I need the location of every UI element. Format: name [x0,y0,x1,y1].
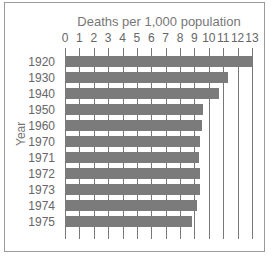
bar [65,120,202,131]
x-tick-label: 1 [76,31,83,45]
bar [65,200,197,211]
x-tick-label: 8 [177,31,184,45]
y-tick-label: 1971 [15,151,55,165]
y-tick-label: 1975 [15,215,55,229]
bar [65,104,203,115]
x-tick-label: 12 [231,31,244,45]
bar [65,216,192,227]
bar [65,136,200,147]
y-axis-title: Year [14,122,28,146]
bar [65,152,199,163]
gridline [238,48,239,239]
x-tick-label: 2 [90,31,97,45]
y-tick-label: 1950 [15,103,55,117]
chart-title: Deaths per 1,000 population [0,14,272,29]
y-tick-label: 1930 [15,71,55,85]
x-tick-label: 6 [148,31,155,45]
y-tick-label: 1973 [15,183,55,197]
y-tick-label: 1940 [15,87,55,101]
bar [65,72,228,83]
y-tick-label: 1972 [15,167,55,181]
x-tick-label: 4 [119,31,126,45]
y-tick-label: 1920 [15,55,55,69]
bar [65,88,219,99]
x-tick-label: 0 [62,31,69,45]
x-tick-label: 11 [217,31,229,45]
y-tick-label: 1974 [15,199,55,213]
x-tick-label: 5 [134,31,141,45]
x-tick-label: 13 [245,31,258,45]
bar [65,168,200,179]
x-tick-label: 3 [105,31,112,45]
bar [65,184,200,195]
x-tick-label: 9 [191,31,198,45]
x-tick-label: 10 [202,31,215,45]
gridline [252,48,253,239]
bar [65,56,252,67]
x-tick-label: 7 [162,31,169,45]
